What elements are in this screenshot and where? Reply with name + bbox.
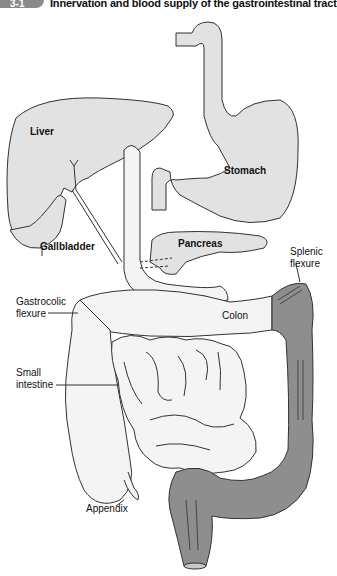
label-gastrocolic-flexure-2: flexure — [16, 308, 46, 319]
label-liver: Liver — [30, 126, 54, 137]
label-splenic-flexure-2: flexure — [290, 258, 320, 269]
small-intestine — [112, 335, 257, 473]
label-pancreas: Pancreas — [178, 238, 222, 249]
label-splenic-flexure-1: Splenic — [290, 246, 323, 257]
liver — [7, 98, 173, 244]
label-stomach: Stomach — [224, 165, 266, 176]
label-colon: Colon — [222, 310, 248, 321]
esophagus — [152, 22, 298, 223]
label-small-intestine-2: intestine — [16, 379, 53, 390]
label-gallbladder: Gallbladder — [40, 241, 95, 252]
label-small-intestine-1: Small — [16, 367, 41, 378]
duodenum — [124, 145, 228, 302]
label-appendix: Appendix — [86, 503, 128, 514]
label-gastrocolic-flexure-1: Gastrocolic — [16, 296, 66, 307]
